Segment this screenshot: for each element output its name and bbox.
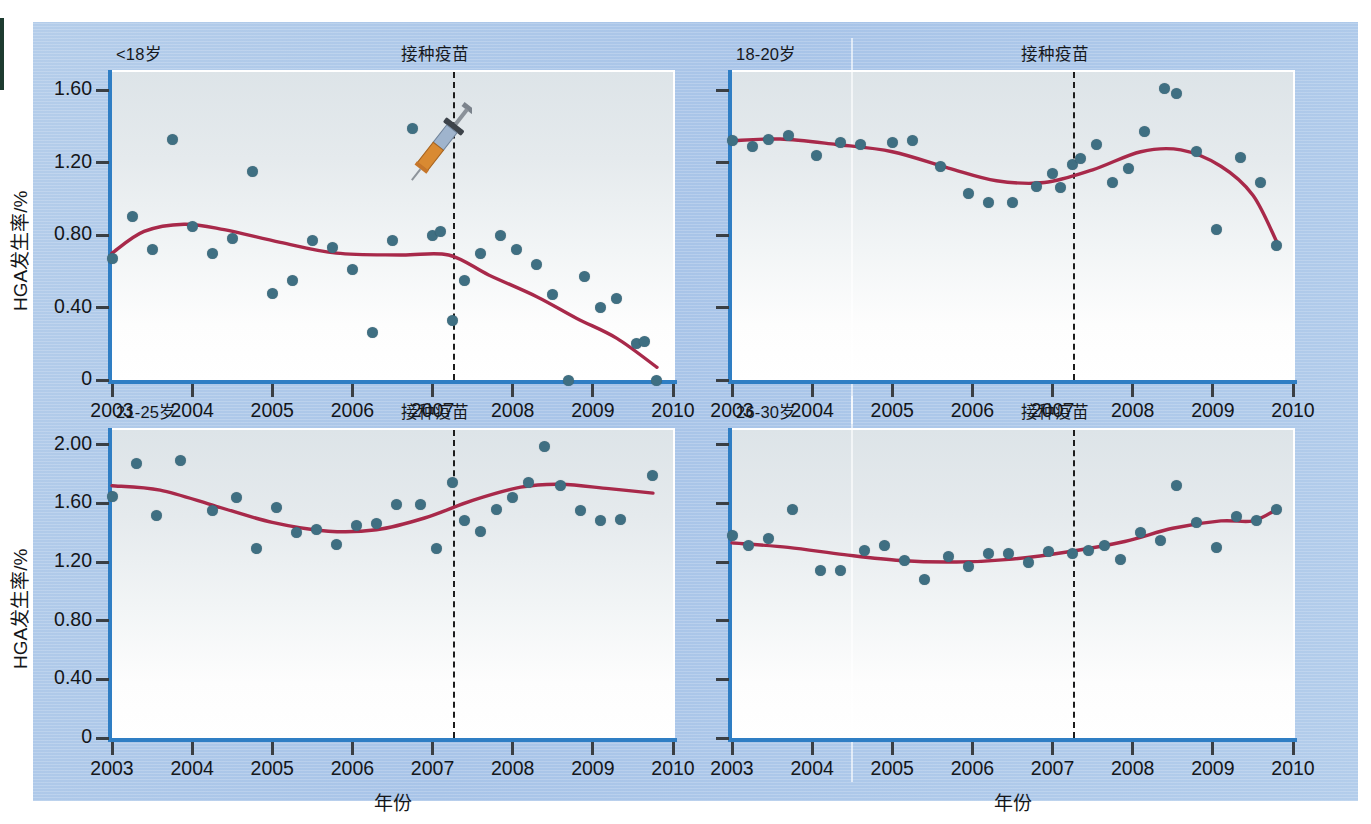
- x-tick-label-C: 2007: [391, 757, 475, 780]
- x-tick-A: [351, 384, 354, 397]
- vaccination-label-C: 接种疫苗: [401, 399, 470, 423]
- data-point: [651, 375, 662, 386]
- data-point: [1023, 557, 1034, 568]
- x-tick-D: [891, 742, 894, 755]
- data-point: [447, 315, 458, 326]
- data-point: [267, 288, 278, 299]
- panel-grid: <18岁接种疫苗00.400.801.201.60200320042005200…: [33, 22, 1358, 801]
- scan-seam-D: [851, 396, 853, 782]
- panel-title-B: 18-20岁: [736, 41, 796, 65]
- y-tick-D: [716, 737, 729, 740]
- x-tick-C: [111, 742, 114, 755]
- data-point: [271, 502, 282, 513]
- data-point: [227, 233, 238, 244]
- data-point: [563, 375, 574, 386]
- y-tick-A: [96, 234, 109, 237]
- data-point: [835, 137, 846, 148]
- data-point: [187, 221, 198, 232]
- x-tick-label-C: 2004: [150, 757, 234, 780]
- x-tick-label-D: 2006: [930, 757, 1014, 780]
- vaccination-label-B: 接种疫苗: [1021, 41, 1090, 65]
- x-tick-A: [591, 384, 594, 397]
- x-tick-label-A: 2006: [310, 399, 394, 422]
- x-tick-C: [511, 742, 514, 755]
- data-point: [247, 166, 258, 177]
- x-tick-B: [1051, 384, 1054, 397]
- data-point: [475, 526, 486, 537]
- y-axis-B: [728, 70, 732, 384]
- data-point: [167, 134, 178, 145]
- data-point: [175, 455, 186, 466]
- data-point: [1083, 545, 1094, 556]
- y-tick-C: [96, 737, 109, 740]
- x-tick-label-B: 2006: [930, 399, 1014, 422]
- data-point: [475, 248, 486, 259]
- x-tick-A: [431, 384, 434, 397]
- y-tick-label-A: 0: [16, 367, 92, 390]
- data-point: [207, 505, 218, 516]
- data-point: [919, 574, 930, 585]
- x-tick-C: [591, 742, 594, 755]
- y-tick-label-C: 2.00: [16, 432, 92, 455]
- data-point: [855, 139, 866, 150]
- x-axis-title-C: 年份: [333, 788, 453, 815]
- data-point: [1155, 535, 1166, 546]
- data-point: [251, 543, 262, 554]
- x-tick-B: [1131, 384, 1134, 397]
- data-point: [811, 150, 822, 161]
- data-point: [387, 235, 398, 246]
- y-tick-B: [716, 234, 729, 237]
- data-point: [459, 275, 470, 286]
- y-tick-A: [96, 306, 109, 309]
- x-axis-title-D: 年份: [953, 788, 1073, 815]
- y-axis-A: [108, 70, 112, 384]
- y-tick-C: [96, 502, 109, 505]
- data-point: [859, 545, 870, 556]
- y-tick-D: [716, 443, 729, 446]
- x-tick-label-B: 2010: [1251, 399, 1335, 422]
- data-point: [935, 161, 946, 172]
- y-tick-A: [96, 379, 109, 382]
- y-tick-B: [716, 161, 729, 164]
- data-point: [131, 458, 142, 469]
- data-point: [539, 441, 550, 452]
- x-tick-label-D: 2010: [1251, 757, 1335, 780]
- x-tick-D: [811, 742, 814, 755]
- y-tick-C: [96, 678, 109, 681]
- x-tick-label-B: 2005: [850, 399, 934, 422]
- x-tick-D: [731, 742, 734, 755]
- data-point: [943, 551, 954, 562]
- y-tick-label-C: 0: [16, 725, 92, 748]
- data-point: [835, 565, 846, 576]
- x-tick-label-A: 2005: [230, 399, 314, 422]
- y-tick-label-C: 0.40: [16, 666, 92, 689]
- data-point: [435, 226, 446, 237]
- x-tick-D: [1211, 742, 1214, 755]
- y-tick-label-C: 1.60: [16, 490, 92, 513]
- data-point: [1115, 554, 1126, 565]
- x-tick-B: [811, 384, 814, 397]
- data-point: [963, 561, 974, 572]
- x-tick-C: [271, 742, 274, 755]
- vaccination-label-A: 接种疫苗: [401, 41, 470, 65]
- data-point: [495, 230, 506, 241]
- data-point: [1007, 197, 1018, 208]
- plot-area-D: [732, 430, 1293, 738]
- data-point: [763, 134, 774, 145]
- x-tick-label-A: 2008: [471, 399, 555, 422]
- y-tick-A: [96, 89, 109, 92]
- data-point: [963, 188, 974, 199]
- y-tick-label-A: 1.60: [16, 77, 92, 100]
- panel-title-C: 21-25岁: [116, 399, 176, 423]
- data-point: [207, 248, 218, 259]
- vaccination-line-D: [1073, 430, 1075, 738]
- data-point: [287, 275, 298, 286]
- x-tick-A: [271, 384, 274, 397]
- data-point: [787, 504, 798, 515]
- x-tick-A: [511, 384, 514, 397]
- data-point: [351, 520, 362, 531]
- data-point: [815, 565, 826, 576]
- x-tick-label-B: 2009: [1171, 399, 1255, 422]
- plot-area-C: [112, 430, 673, 738]
- y-tick-D: [716, 678, 729, 681]
